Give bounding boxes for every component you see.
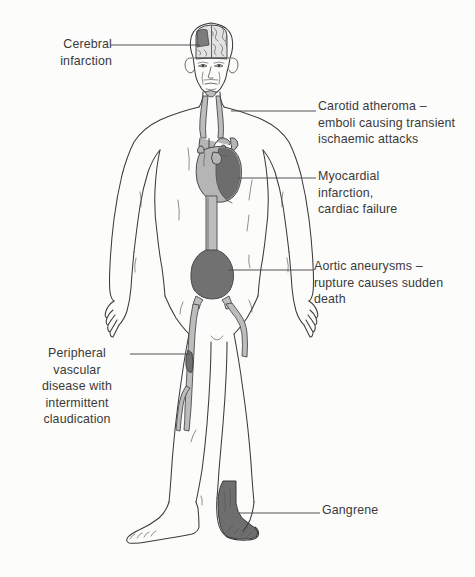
arterial-tree [176, 91, 248, 432]
nose [208, 67, 213, 78]
flank-contour-left [178, 200, 179, 220]
right-arm-inner-upper [263, 150, 289, 252]
left-arm-inner [119, 252, 134, 325]
right-leg-inner [217, 342, 227, 498]
annotation-peripheral-vascular-disease: Peripheral vascular disease with intermi… [24, 345, 130, 428]
upper-lip-line [204, 80, 218, 81]
carotid-artery-right [216, 96, 224, 138]
groin-line [211, 336, 223, 340]
brain-sagittal-section [194, 25, 229, 58]
annotation-aortic-aneurysms: Aortic aneurysms – rupture causes sudden… [314, 258, 470, 308]
mouth [205, 83, 217, 84]
left-leg-inner [196, 342, 211, 502]
torso-left-flank [155, 150, 165, 296]
gangrenous-foot [217, 481, 259, 540]
left-ankle-crease [201, 496, 202, 505]
annotation-cerebral-infarction: Cerebral infarction [20, 36, 112, 69]
svc-stump [197, 146, 204, 153]
right-arm-inner [289, 252, 304, 325]
chest-contour-right [247, 180, 252, 231]
eyebrows [198, 62, 224, 63]
femoral-artery-stenosis [186, 350, 193, 372]
descending-aorta [206, 196, 217, 252]
annotation-carotid-atheroma: Carotid atheroma – emboli causing transi… [318, 98, 470, 148]
heart-auricle [212, 152, 222, 164]
ear-left [185, 58, 194, 73]
pupil-right [218, 64, 221, 67]
left-hip [165, 296, 189, 334]
left-hand-fingers [105, 301, 119, 337]
pupil-left [202, 64, 205, 67]
forearm-contour-left [135, 258, 136, 272]
left-arm-inner-upper [134, 150, 160, 252]
ear-right [229, 58, 238, 73]
torso-right-flank [258, 150, 268, 296]
annotation-gangrene: Gangrene [322, 502, 442, 519]
left-knee-crease [191, 430, 196, 442]
anatomical-figure: .ink { fill:none; stroke:#3b3b3b; stroke… [0, 0, 475, 577]
chest-contour-left [188, 148, 189, 170]
annotation-myocardial-infarction: Myocardial infarction, cardiac failure [318, 168, 466, 218]
gangrene-fill [218, 481, 258, 539]
cerebral-infarct-wedge [197, 29, 209, 47]
chin-crease [206, 89, 216, 90]
right-leg-outer [234, 334, 254, 502]
abdominal-aortic-aneurysm [191, 250, 234, 299]
abdomen-contour [249, 255, 250, 268]
hip-contour-left [180, 302, 183, 314]
